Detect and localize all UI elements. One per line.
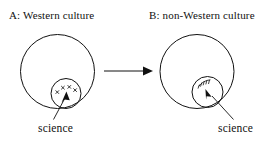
x-mark bbox=[61, 86, 64, 89]
transfer-arrow bbox=[104, 67, 153, 76]
science-label-a: science bbox=[38, 122, 73, 134]
outer-circle-b bbox=[160, 35, 234, 109]
science-label-b: science bbox=[218, 122, 253, 134]
panel-b-title: B: non-Western culture bbox=[149, 9, 255, 21]
science-pointer-b bbox=[205, 89, 233, 120]
panel-b-graphic bbox=[160, 35, 234, 120]
panel-a-graphic bbox=[21, 35, 95, 120]
hatching-b bbox=[198, 80, 210, 89]
figure-root: A: Western culture B: non-Western cultur… bbox=[0, 0, 268, 144]
arrowhead bbox=[62, 92, 70, 103]
panel-a-title: A: Western culture bbox=[9, 9, 94, 21]
arrowhead bbox=[143, 67, 153, 76]
arrowhead bbox=[205, 89, 211, 100]
outer-circle-a bbox=[21, 35, 95, 109]
x-mark bbox=[73, 88, 76, 91]
x-mark bbox=[68, 85, 71, 88]
science-pointer-a bbox=[54, 92, 70, 120]
x-mark bbox=[56, 90, 59, 93]
